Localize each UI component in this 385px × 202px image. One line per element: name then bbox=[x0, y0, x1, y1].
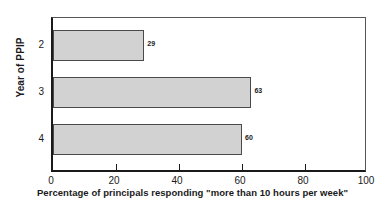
x-axis-tick-label: 60 bbox=[220, 175, 260, 186]
bar-value-label: 60 bbox=[245, 134, 253, 142]
bar bbox=[53, 77, 251, 108]
bar-row bbox=[53, 77, 251, 108]
bar-row bbox=[53, 124, 242, 155]
x-axis-tick-label: 20 bbox=[94, 175, 134, 186]
x-axis-tick-mark bbox=[116, 164, 117, 170]
y-axis-tick-label: 2 bbox=[26, 40, 44, 50]
x-axis-tick-label: 40 bbox=[157, 175, 197, 186]
bar-value-label: 63 bbox=[254, 87, 262, 95]
plot-area bbox=[51, 17, 366, 172]
bar-value-label: 29 bbox=[147, 40, 155, 48]
bar bbox=[53, 124, 242, 155]
y-axis-tick-label: 3 bbox=[26, 87, 44, 97]
x-axis-title: Percentage of principals responding "mor… bbox=[0, 187, 385, 198]
bar-chart-figure: Year of PPIP 2 3 4 29 63 60 0 20 40 60 8… bbox=[0, 0, 385, 202]
x-axis-tick-label: 100 bbox=[346, 175, 385, 186]
y-axis-tick-label: 4 bbox=[26, 134, 44, 144]
bar bbox=[53, 30, 144, 61]
bar-row bbox=[53, 30, 144, 61]
x-axis-tick-mark bbox=[305, 164, 306, 170]
x-axis-tick-mark bbox=[242, 164, 243, 170]
y-axis-title: Year of PPIP bbox=[15, 8, 26, 128]
x-axis-tick-label: 80 bbox=[283, 175, 323, 186]
x-axis-tick-label: 0 bbox=[31, 175, 71, 186]
x-axis-tick-mark bbox=[179, 164, 180, 170]
